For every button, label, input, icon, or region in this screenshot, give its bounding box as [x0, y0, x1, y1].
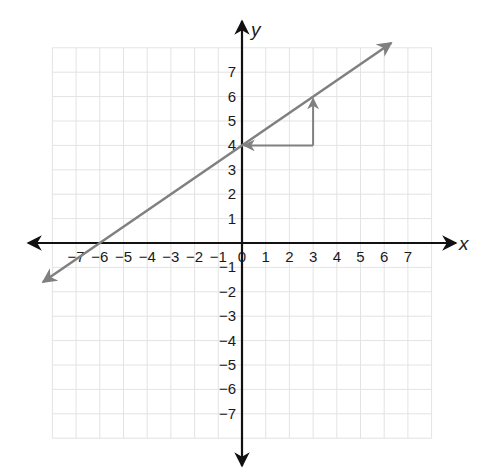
x-tick-label: 6: [380, 248, 388, 265]
y-axis-label: y: [249, 19, 262, 40]
x-axis-label: x: [458, 233, 470, 254]
x-tick-label: −4: [139, 248, 156, 265]
x-tick-label: −3: [162, 248, 179, 265]
linear-function-line: [43, 43, 391, 282]
y-tick-label: −6: [219, 380, 236, 397]
y-tick-label: 6: [228, 88, 236, 105]
y-tick-label: −5: [219, 356, 236, 373]
y-tick-label: −7: [219, 405, 236, 422]
x-tick-label: 3: [309, 248, 317, 265]
y-tick-label: 1: [228, 210, 236, 227]
y-tick-label: 2: [228, 185, 236, 202]
y-tick-label: 3: [228, 161, 236, 178]
x-tick-label: 0: [238, 248, 246, 265]
x-tick-label: −2: [186, 248, 203, 265]
y-tick-label: −4: [219, 332, 236, 349]
x-tick-label: 1: [262, 248, 270, 265]
x-tick-label: −5: [115, 248, 132, 265]
y-tick-label: 7: [228, 63, 236, 80]
x-tick-label: 4: [333, 248, 341, 265]
x-tick-label: 2: [285, 248, 293, 265]
plotted-line: [43, 43, 391, 282]
y-tick-label: −2: [219, 283, 236, 300]
y-tick-label: −3: [219, 307, 236, 324]
coordinate-plane: −7−6−5−4−3−2−1012345677654321−1−2−3−4−5−…: [0, 0, 493, 472]
y-tick-label: −1: [219, 258, 236, 275]
x-tick-label: −6: [91, 248, 108, 265]
axes: [28, 21, 456, 466]
x-tick-label: 7: [404, 248, 412, 265]
x-tick-label: 5: [356, 248, 364, 265]
y-tick-label: 5: [228, 112, 236, 129]
